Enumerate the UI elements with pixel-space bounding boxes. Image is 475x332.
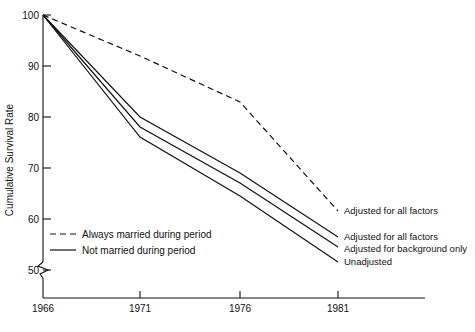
legend-label-always-married: Always married during period (82, 229, 212, 240)
x-tick-label-1981: 1981 (327, 303, 350, 314)
x-tick-label-1976: 1976 (229, 303, 252, 314)
series-end-label-always-married-adjusted-all: Adjusted for all factors (344, 205, 438, 216)
line-chart-canvas: 100 90 80 70 60 50 1966 1971 1976 1981 C… (0, 0, 475, 332)
y-tick-label-100: 100 (22, 10, 39, 21)
y-axis-title: Cumulative Survival Rate (4, 103, 15, 216)
x-tick-label-1971: 1971 (129, 303, 152, 314)
y-tick-label-70: 70 (28, 163, 40, 174)
legend: Always married during period Not married… (50, 229, 212, 256)
x-tick-label-1966: 1966 (32, 303, 55, 314)
y-tick-label-50: 50 (28, 265, 40, 276)
y-tick-marks (43, 15, 51, 270)
y-axis (38, 15, 48, 298)
y-tick-label-60: 60 (28, 214, 40, 225)
series-line-not-married-adjusted-background (43, 15, 338, 247)
y-tick-label-90: 90 (28, 61, 40, 72)
series-end-label-not-married-adjusted-background: Adjusted for background only (344, 243, 467, 254)
series-line-not-married-adjusted-all (43, 15, 338, 237)
series-end-label-not-married-adjusted-all: Adjusted for all factors (344, 231, 438, 242)
series-line-not-married-unadjusted (43, 15, 338, 262)
y-tick-label-80: 80 (28, 112, 40, 123)
x-tick-marks (140, 291, 338, 298)
legend-label-not-married: Not married during period (82, 245, 195, 256)
chart-figure: 100 90 80 70 60 50 1966 1971 1976 1981 C… (0, 0, 475, 332)
series-end-label-not-married-unadjusted: Unadjusted (344, 256, 392, 267)
series-line-always-married-adjusted-all (43, 15, 338, 211)
